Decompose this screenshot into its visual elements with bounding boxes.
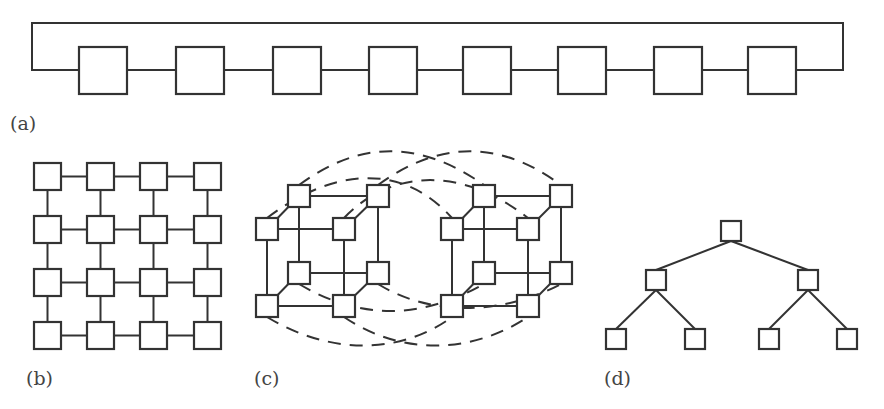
- node: [87, 322, 114, 349]
- cross-link: [344, 317, 528, 346]
- node: [140, 216, 167, 243]
- node: [34, 216, 61, 243]
- node: [550, 262, 572, 284]
- node: [685, 329, 705, 349]
- node: [140, 322, 167, 349]
- panel-label-d: (d): [604, 367, 631, 389]
- node: [288, 262, 310, 284]
- node: [288, 185, 310, 207]
- node: [34, 269, 61, 296]
- node: [517, 295, 539, 317]
- node: [140, 163, 167, 190]
- node: [87, 216, 114, 243]
- ring-wraparound-link: [32, 23, 843, 70]
- link: [656, 241, 731, 270]
- node: [333, 295, 355, 317]
- node: [550, 185, 572, 207]
- link: [808, 290, 847, 329]
- mesh-links: [48, 177, 208, 336]
- panel-c-hypercube-topology: (c): [254, 151, 572, 389]
- node: [34, 322, 61, 349]
- node: [367, 262, 389, 284]
- link: [616, 290, 656, 329]
- node: [441, 218, 463, 240]
- node: [194, 322, 221, 349]
- panel-label-a: (a): [10, 112, 36, 134]
- node: [473, 185, 495, 207]
- node: [837, 329, 857, 349]
- node: [194, 163, 221, 190]
- cross-link: [267, 317, 452, 346]
- node: [606, 329, 626, 349]
- node: [646, 270, 666, 290]
- panel-b-mesh-topology: (b): [26, 163, 221, 389]
- node: [87, 269, 114, 296]
- panel-a-ring-topology: (a): [10, 23, 843, 134]
- node: [558, 47, 606, 94]
- node: [256, 295, 278, 317]
- node: [463, 47, 511, 94]
- hypercube-links: [267, 196, 561, 306]
- hypercube-nodes: [256, 185, 572, 317]
- node: [369, 47, 417, 94]
- node: [798, 270, 818, 290]
- mesh-nodes: [34, 163, 221, 349]
- node: [34, 163, 61, 190]
- node: [176, 47, 224, 94]
- panel-label-b: (b): [26, 367, 53, 389]
- link: [656, 290, 695, 329]
- node: [759, 329, 779, 349]
- node: [194, 269, 221, 296]
- tree-nodes: [606, 221, 857, 349]
- link: [731, 241, 808, 270]
- node: [473, 262, 495, 284]
- panel-d-tree-topology: (d): [604, 221, 857, 389]
- node: [256, 218, 278, 240]
- node: [333, 218, 355, 240]
- link: [769, 290, 808, 329]
- node: [441, 295, 463, 317]
- node: [367, 185, 389, 207]
- cross-link: [378, 151, 561, 185]
- node: [87, 163, 114, 190]
- node: [517, 218, 539, 240]
- node: [721, 221, 741, 241]
- node: [194, 216, 221, 243]
- node: [140, 269, 167, 296]
- node: [79, 47, 127, 94]
- node: [654, 47, 702, 94]
- panel-label-c: (c): [254, 367, 279, 389]
- node: [748, 47, 796, 94]
- node: [273, 47, 321, 94]
- network-topologies-figure: (a) (b) (c) (d): [0, 0, 884, 409]
